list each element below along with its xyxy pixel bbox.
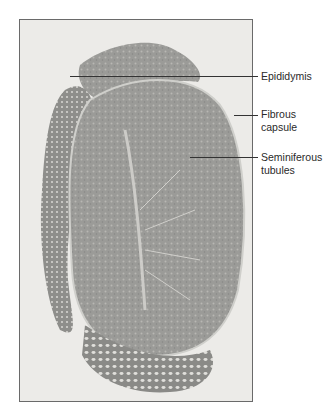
- seminiferous-tubules-leader-line: [190, 157, 258, 158]
- epididymis-label: Epididymis: [261, 70, 312, 83]
- seminiferous-tubules-label-line1: Seminiferous: [261, 151, 322, 164]
- fibrous-capsule-label-line2: capsule: [261, 121, 297, 134]
- epididymis-label-text: Epididymis: [261, 70, 312, 82]
- testis-micrograph: [20, 20, 252, 401]
- fibrous-capsule-label-line1: Fibrous: [261, 108, 297, 121]
- epididymis-leader-line: [70, 76, 258, 77]
- fibrous-capsule-label: Fibrous capsule: [261, 108, 297, 133]
- fibrous-capsule-leader-line: [234, 115, 258, 116]
- seminiferous-tubules-label: Seminiferous tubules: [261, 151, 322, 176]
- seminiferous-tubules-label-line2: tubules: [261, 164, 322, 177]
